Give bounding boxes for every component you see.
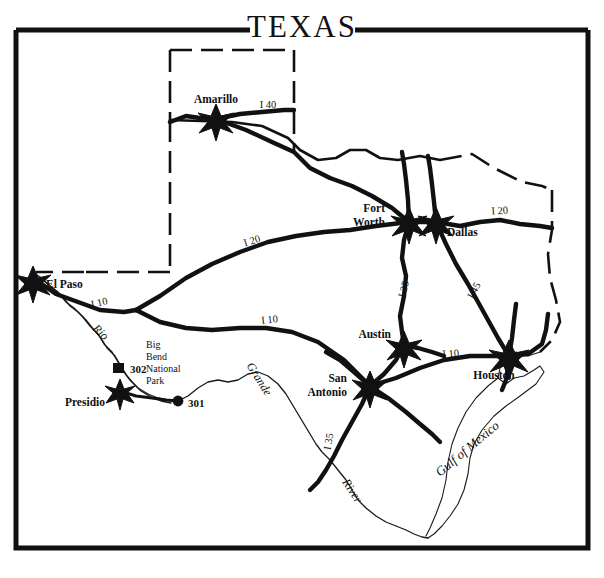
texas-map: TEXAS [0,0,604,578]
river-label-rio: Rio [89,321,111,343]
highway-label-i35-south: I 35 [322,432,336,450]
city-label-dallas: Dallas [447,226,478,238]
highway-label-i10-far-west: I 10 [90,295,109,309]
city-label-austin: Austin [358,328,391,340]
city-label-houston: Houston [473,369,515,381]
map-canvas: TEXAS [0,0,604,578]
state-boundary [36,50,560,538]
city-label-san-antonio-line1: San [328,372,347,384]
frame-left-right-bottom [16,30,588,548]
highway-label-i20-east: I 20 [491,204,508,216]
city-label-fort-worth-line1: Fort [363,202,385,214]
city-label-amarillo: Amarillo [194,93,238,105]
park-label-line2: Bend [146,351,167,362]
park-label-group: Big Bend National Park [146,339,181,386]
water-label-gulf-of-mexico: Gulf of Mexico [432,417,502,479]
park-label-line4: Park [146,375,164,386]
highway-label-i10-central: I 10 [261,313,279,326]
east-sabine-border [540,190,560,352]
highway-label-i35-north: I 35 [396,280,411,299]
park-label-line1: Big [146,339,160,350]
site-marker-302 [113,363,124,373]
northeast-border [440,154,552,190]
site-label-301: 301 [188,397,205,409]
park-label-line3: National [146,363,181,374]
highway-i20-west [136,222,409,310]
highway-label-i40: I 40 [260,99,277,110]
city-label-el-paso: El Paso [46,278,83,290]
city-label-fort-worth-line2: Worth [353,216,386,228]
city-label-presidio: Presidio [65,396,105,408]
page-title: TEXAS [247,9,357,44]
map-frame [16,30,588,548]
site-marker-301 [173,396,184,407]
site-label-302: 302 [130,363,147,375]
river-label-river: River [339,475,366,506]
city-label-san-antonio-line2: Antonio [307,386,347,398]
highway-label-i10-east: I 10 [442,347,459,359]
highway-i35-south [310,386,370,490]
river-label-grande: Grande [244,360,276,399]
